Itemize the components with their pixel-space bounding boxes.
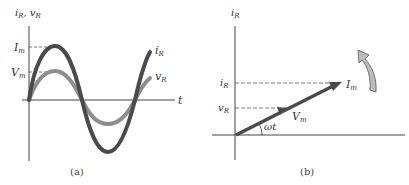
panel-b-phasor: iR iR vR Im Vm ωt (b) xyxy=(212,7,405,177)
im-tick-label: Im xyxy=(13,41,25,55)
y-axis-label: iR, vR xyxy=(15,7,42,20)
angle-arc xyxy=(259,123,262,135)
vm-phasor-label: Vm xyxy=(292,110,307,124)
vm-tick-label: Vm xyxy=(11,66,26,80)
ir-curve-label: iR xyxy=(155,44,165,58)
omega-t-label: ωt xyxy=(264,121,277,132)
figure: iR, vR Im Vm iR vR t (a) iR iR vR Im Vm … xyxy=(0,0,409,185)
caption-b: (b) xyxy=(300,166,314,177)
panel-a-waveforms: iR, vR Im Vm iR vR t (a) xyxy=(11,7,183,177)
caption-a: (a) xyxy=(70,166,84,177)
vr-level-label: vR xyxy=(218,102,230,115)
y-axis-label-b: iR xyxy=(231,7,240,20)
vr-curve-label: vR xyxy=(155,70,167,84)
ir-waveform xyxy=(29,46,150,152)
rotation-arrow-icon xyxy=(358,50,376,92)
t-axis-label: t xyxy=(178,94,183,107)
ir-level-label: iR xyxy=(220,77,229,90)
im-phasor-label: Im xyxy=(345,78,357,92)
